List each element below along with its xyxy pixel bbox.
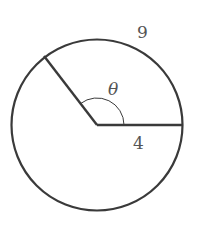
radius-label: 4 bbox=[133, 133, 144, 153]
circle-diagram: 9 4 θ bbox=[0, 0, 197, 226]
arc-length-label: 9 bbox=[137, 22, 148, 42]
angle-label: θ bbox=[108, 79, 118, 99]
radius-upper-left bbox=[44, 56, 97, 125]
